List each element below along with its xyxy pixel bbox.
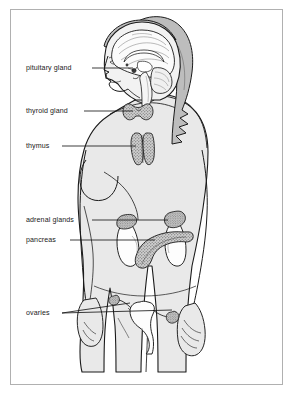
thymus-lobe-right <box>143 133 154 165</box>
ovary-right-organ <box>166 311 179 323</box>
label-pituitary-gland: pituitary gland <box>26 64 72 72</box>
ovary-left-organ <box>109 295 120 305</box>
label-ovaries: ovaries <box>26 309 50 317</box>
hypothalamus-marker <box>126 64 129 67</box>
figure-page: pituitary gland thyroid gland thymus adr… <box>0 0 295 396</box>
label-thymus: thymus <box>26 142 50 150</box>
hand-right <box>177 303 205 356</box>
label-thyroid-gland: thyroid gland <box>26 107 68 115</box>
label-adrenal-glands: adrenal glands <box>26 216 74 224</box>
label-pancreas: pancreas <box>26 236 56 244</box>
pituitary-gland-organ <box>132 69 136 73</box>
endocrine-diagram: pituitary gland thyroid gland thymus adr… <box>0 0 295 396</box>
labels: pituitary gland thyroid gland thymus adr… <box>26 64 74 317</box>
